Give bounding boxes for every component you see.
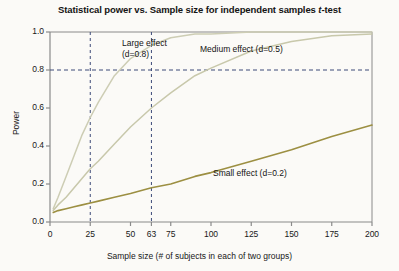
small-effect-annotation: Small effect (d=0.2) [213, 168, 287, 179]
x-tick-label-9: 200 [356, 229, 388, 239]
x-tick-label-1: 25 [74, 229, 106, 239]
x-tick-label-7: 150 [276, 229, 308, 239]
y-tick-label-5: 1.0 [6, 26, 44, 36]
small-effect-annotation-line-0: Small effect (d=0.2) [213, 168, 287, 179]
medium-effect-annotation: Medium effect (d=0.5) [200, 44, 283, 55]
large-effect-annotation-line-0: Large effect [122, 38, 167, 49]
x-tick-label-8: 175 [316, 229, 348, 239]
large-effect-annotation: Large effect(d=0.8) [122, 38, 167, 59]
series-line-1 [53, 34, 372, 211]
y-tick-label-0: 0.0 [6, 216, 44, 226]
series-line-0 [53, 32, 372, 209]
x-tick-label-5: 100 [195, 229, 227, 239]
chart-figure: Statistical power vs. Sample size for in… [0, 0, 399, 271]
x-tick-label-4: 75 [155, 229, 187, 239]
x-tick-label-0: 0 [34, 229, 66, 239]
medium-effect-annotation-line-0: Medium effect (d=0.5) [200, 44, 283, 55]
y-tick-label-4: 0.8 [6, 64, 44, 74]
y-tick-label-1: 0.2 [6, 178, 44, 188]
y-tick-label-3: 0.6 [6, 102, 44, 112]
x-tick-label-6: 125 [235, 229, 267, 239]
y-tick-label-2: 0.4 [6, 140, 44, 150]
x-axis-label: Sample size (# of subjects in each of tw… [0, 251, 399, 261]
large-effect-annotation-line-1: (d=0.8) [122, 49, 167, 60]
